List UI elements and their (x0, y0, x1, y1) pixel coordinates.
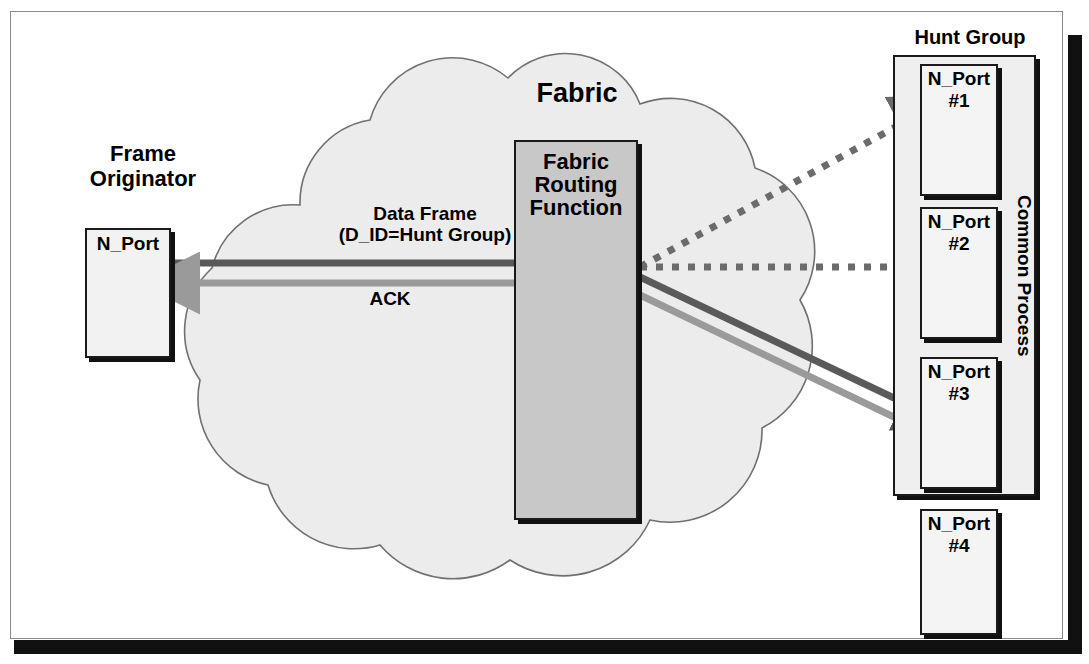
n-port-1-name: N_Port (922, 69, 996, 88)
data-frame-line-2: (D_ID=Hunt Group) (280, 224, 570, 245)
fabric-label: Fabric (492, 78, 662, 108)
frame-bottom-rule (14, 640, 1082, 654)
n-port-4-name: N_Port (922, 514, 996, 533)
n-port-3-number: #3 (922, 384, 996, 403)
frame-originator-label: Frame Originator (63, 142, 223, 191)
n-port-3-name: N_Port (922, 362, 996, 381)
frf-line-1: Fabric (516, 150, 636, 173)
n-port-2-box[interactable]: N_Port #2 (920, 207, 998, 339)
ack-label: ACK (325, 288, 455, 309)
frame-originator-line-1: Frame (63, 142, 223, 167)
frame-right-rule (1068, 35, 1082, 654)
common-process-label: Common Process (1013, 195, 1035, 357)
frf-line-2: Routing (516, 173, 636, 196)
n-port-2-number: #2 (922, 234, 996, 253)
n-port-4-number: #4 (922, 536, 996, 555)
hunt-group-label: Hunt Group (880, 26, 1060, 48)
data-frame-label: Data Frame (D_ID=Hunt Group) (280, 203, 570, 246)
fabric-routing-function-box[interactable]: Fabric Routing Function (514, 140, 638, 520)
n-port-originator-label: N_Port (87, 234, 169, 254)
n-port-4-box[interactable]: N_Port #4 (920, 509, 998, 635)
n-port-1-number: #1 (922, 91, 996, 110)
data-frame-line-1: Data Frame (280, 203, 570, 224)
n-port-originator-box[interactable]: N_Port (85, 228, 171, 358)
n-port-3-box[interactable]: N_Port #3 (920, 357, 998, 489)
frame-originator-line-2: Originator (63, 167, 223, 192)
diagram-canvas: N_Port Fabric Routing Function N_Port #1… (0, 0, 1089, 664)
n-port-2-name: N_Port (922, 212, 996, 231)
common-process-strip: Common Process (1011, 58, 1036, 494)
n-port-1-box[interactable]: N_Port #1 (920, 64, 998, 196)
